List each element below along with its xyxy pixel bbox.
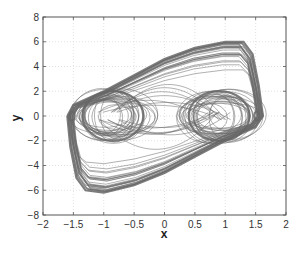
x-tick-label: −1.5 — [64, 219, 84, 230]
x-tick-label: 2 — [283, 219, 289, 230]
x-tick-label: −2 — [37, 219, 49, 230]
y-tick-label: 6 — [33, 36, 39, 47]
y-tick-label: 4 — [33, 61, 39, 72]
y-tick-label: −4 — [28, 160, 40, 171]
trajectory-plot — [67, 42, 266, 193]
x-tick-label: 1.5 — [249, 219, 263, 230]
y-tick-label: −8 — [28, 210, 40, 221]
y-tick-label: 8 — [33, 12, 39, 23]
y-tick-label: 2 — [33, 86, 39, 97]
x-tick-label: 1 — [222, 219, 228, 230]
x-tick-label: −1 — [98, 219, 110, 230]
y-tick-label: −6 — [28, 185, 40, 196]
x-axis-label: x — [161, 227, 168, 241]
x-tick-label: 0.5 — [188, 219, 202, 230]
x-tick-label: −0.5 — [124, 219, 144, 230]
y-tick-label: −2 — [28, 135, 40, 146]
y-axis-label: y — [9, 114, 23, 121]
y-tick-label: 0 — [33, 111, 39, 122]
phase-portrait-chart: −2−1.5−1−0.500.511.52 −8−6−4−202468 x y — [0, 0, 303, 255]
